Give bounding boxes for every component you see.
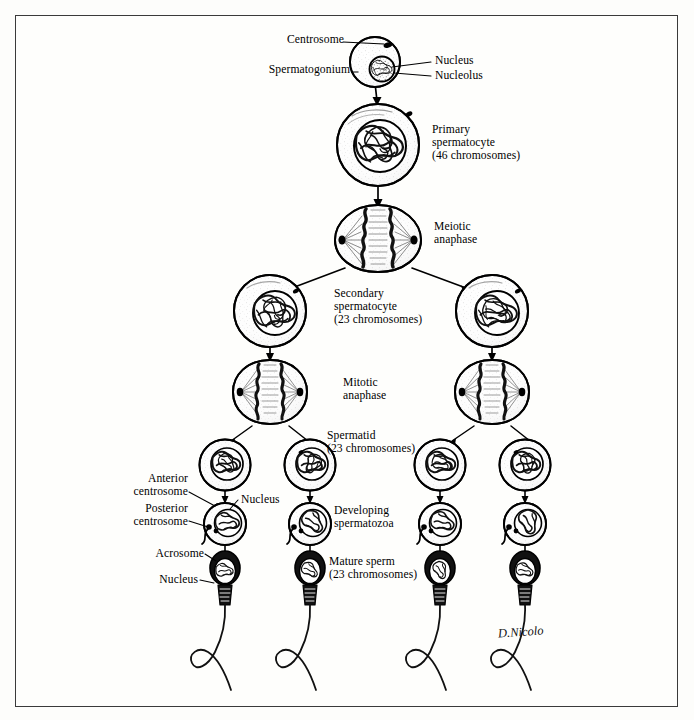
cell-secondary-spermatocyte-right — [456, 275, 528, 347]
label-nucleus-top: Nucleus — [435, 55, 474, 68]
artist-signature: D.Nicolo — [498, 623, 544, 641]
figure-canvas: Centrosome Spermatogonium Nucleus Nucleo… — [0, 0, 694, 720]
mature-sperm-4 — [491, 551, 540, 690]
cell-mitotic-anaphase-right — [455, 360, 529, 424]
cell-spermatid-3 — [415, 440, 466, 491]
cell-developing-spermatozoon-2 — [287, 503, 331, 545]
label-spermatogonium: Spermatogonium — [228, 64, 350, 77]
cell-spermatid-1 — [200, 440, 251, 491]
label-spermatid: Spermatid (23 chromosomes) — [327, 430, 415, 456]
label-anterior-centrosome: Anterior centrosome — [108, 473, 188, 499]
mature-sperm-1 — [191, 551, 240, 690]
label-mitotic-anaphase: Mitotic anaphase — [343, 377, 386, 403]
label-mature-sperm: Mature sperm (23 chromosomes) — [329, 556, 417, 582]
cell-spermatogonium — [350, 37, 400, 87]
cell-developing-spermatozoon-3 — [417, 503, 461, 545]
label-centrosome: Centrosome — [258, 34, 344, 47]
mature-sperm-2 — [276, 551, 325, 690]
posterior-centrosome-dot — [214, 529, 219, 534]
label-nucleus-spermatid: Nucleus — [241, 494, 280, 507]
label-posterior-centrosome: Posterior centrosome — [94, 503, 188, 529]
cell-primary-spermatocyte — [337, 104, 419, 186]
cell-spermatid-4 — [500, 440, 551, 491]
label-nucleolus: Nucleolus — [435, 70, 483, 83]
cell-developing-spermatozoon-1 — [202, 503, 246, 545]
label-meiotic-anaphase: Meiotic anaphase — [434, 221, 477, 247]
label-nucleus-sperm: Nucleus — [128, 574, 198, 587]
cell-mitotic-anaphase-left — [233, 360, 307, 424]
spermatogenesis-illustration — [0, 0, 694, 720]
label-developing-spermatozoa: Developing spermatozoa — [334, 505, 394, 531]
cell-meiotic-anaphase — [335, 205, 421, 272]
label-secondary-spermatocyte: Secondary spermatocyte (23 chromosomes) — [334, 288, 422, 326]
label-primary-spermatocyte: Primary spermatocyte (46 chromosomes) — [432, 124, 520, 162]
cell-secondary-spermatocyte-left — [234, 275, 306, 347]
cell-developing-spermatozoon-4 — [502, 503, 546, 545]
label-acrosome: Acrosome — [128, 548, 204, 561]
